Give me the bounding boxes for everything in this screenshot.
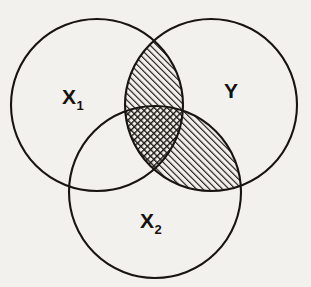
set-label-y: Y [224,79,238,102]
venn-diagram-figure: in many fields have tried to build and i… [0,0,311,287]
venn-diagram-canvas: X1 Y X2 [0,0,311,287]
